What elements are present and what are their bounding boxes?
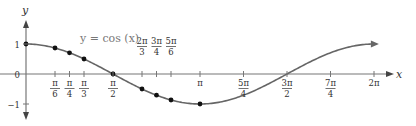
data-point <box>154 93 159 98</box>
data-point <box>140 87 145 92</box>
data-point <box>53 46 58 51</box>
y-axis-label: y <box>21 4 29 17</box>
x-tick-label-denominator: 4 <box>241 89 246 99</box>
plot-area: π6π4π3π22π33π45π6π5π43π27π42π 10−1 x y y… <box>0 0 416 126</box>
y-tick-label: 0 <box>15 70 20 80</box>
data-point <box>198 102 203 107</box>
x-tick-label-denominator: 6 <box>168 47 173 57</box>
x-tick-label: π <box>197 78 203 88</box>
cosine-curve <box>26 41 379 104</box>
x-tick-label-denominator: 2 <box>110 89 115 99</box>
x-tick-label-numerator: 7π <box>325 78 336 88</box>
x-tick-label-denominator: 4 <box>328 89 333 99</box>
x-tick-label-numerator: π <box>110 78 116 88</box>
x-tick-label-numerator: 5π <box>166 36 177 46</box>
x-tick-label-numerator: π <box>81 78 87 88</box>
x-tick-label-numerator: π <box>67 78 73 88</box>
data-point <box>67 50 72 55</box>
x-tick-label-denominator: 3 <box>81 89 86 99</box>
data-point <box>169 98 174 103</box>
x-tick-label-numerator: 3π <box>282 78 293 88</box>
x-tick-label-denominator: 6 <box>52 89 57 99</box>
x-tick-label: 2π <box>369 78 380 88</box>
cosine-chart: π6π4π3π22π33π45π6π5π43π27π42π 10−1 x y y… <box>0 0 416 126</box>
x-axis-label: x <box>396 68 403 81</box>
data-point <box>82 57 87 62</box>
axes <box>0 20 394 120</box>
y-axis-up-arrow-icon <box>23 20 29 28</box>
x-tick-label-numerator: 3π <box>151 36 162 46</box>
x-tick-label-numerator: π <box>52 78 58 88</box>
y-tick-label: 1 <box>15 40 20 50</box>
function-label: y = cos (x) <box>79 32 139 45</box>
x-tick-label-denominator: 3 <box>139 47 144 57</box>
y-axis-down-arrow-icon <box>23 112 29 120</box>
x-tick-label-denominator: 2 <box>284 89 289 99</box>
curve-arrow-icon <box>371 41 379 48</box>
x-tick-label-denominator: 4 <box>154 47 159 57</box>
x-tick-label-denominator: 4 <box>67 89 72 99</box>
x-tick-label-numerator: 5π <box>238 78 249 88</box>
x-axis-arrow-icon <box>386 71 394 77</box>
y-tick-label: −1 <box>7 100 20 110</box>
